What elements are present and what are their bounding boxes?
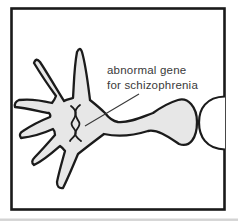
gene-label-line2: for schizophrenia: [107, 78, 198, 93]
diagram-art: [0, 0, 238, 224]
diagram-canvas: abnormal gene for schizophrenia: [0, 0, 238, 224]
page-edge-shadow: [0, 219, 238, 221]
gene-label-line1: abnormal gene: [107, 63, 198, 78]
adjacent-cell-shape: [199, 97, 225, 150]
gene-label: abnormal gene for schizophrenia: [107, 63, 198, 92]
